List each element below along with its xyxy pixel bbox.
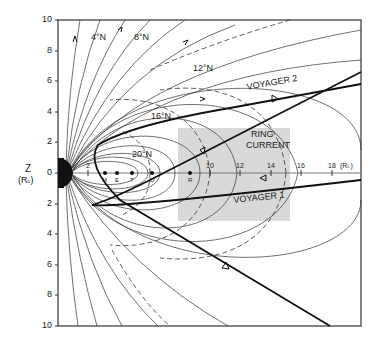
diagram-canvas	[0, 0, 383, 346]
x-tick-14: 14	[264, 162, 278, 169]
moon-label-mimas: M	[102, 177, 107, 183]
x-tick-18: 18	[325, 162, 339, 169]
saturn-body-fill	[58, 158, 64, 188]
x-tick-2: 2	[81, 162, 95, 169]
y-tick-4-bottom: 4	[38, 229, 52, 238]
moon-label-tethys: T	[130, 177, 134, 183]
latitude-label-12n: 12°N	[193, 64, 213, 73]
latitude-label-4n: 4°N	[91, 33, 106, 42]
y-axis-label: Z	[25, 164, 31, 173]
y-tick-4-top: 4	[38, 107, 52, 116]
y-axis-unit: (Rₛ)	[18, 176, 34, 185]
x-tick-12: 12	[233, 162, 247, 169]
y-tick-0: 0	[38, 168, 52, 177]
moon-label-rhea: R	[188, 177, 192, 183]
x-axis-unit: (Rₛ)	[340, 161, 353, 170]
latitude-label-8n: 8°N	[134, 33, 149, 42]
ring-current-label-line1: RING	[251, 130, 274, 139]
latitude-label-20n: 20°N	[132, 150, 152, 159]
latitude-label-16n: 16°N	[151, 112, 171, 121]
y-tick-6-top: 6	[38, 76, 52, 85]
saturn-magnetosphere-diagram: 10 8 6 4 2 0 2 4 6 8 10 Z (Rₛ) 2 10 12 1…	[0, 0, 383, 346]
ring-current-label-line2: CURRENT	[246, 141, 290, 150]
y-tick-6-bottom: 6	[38, 260, 52, 269]
y-tick-8-bottom: 8	[38, 290, 52, 299]
y-tick-2-top: 2	[38, 137, 52, 146]
y-tick-10-top: 10	[38, 15, 52, 24]
x-tick-10: 10	[203, 162, 217, 169]
moon-label-enceladus: E	[115, 177, 119, 183]
y-tick-10-bottom: 10	[38, 321, 52, 330]
moon-label-dione: D	[150, 177, 154, 183]
y-tick-2-bottom: 2	[38, 199, 52, 208]
x-tick-16: 16	[294, 162, 308, 169]
y-tick-8-top: 8	[38, 46, 52, 55]
